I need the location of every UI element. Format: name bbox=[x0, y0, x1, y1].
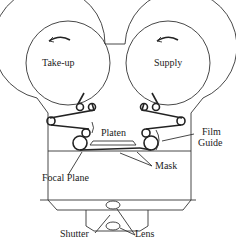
film-guide-label-line2: Guide bbox=[198, 137, 223, 148]
mask-label: Mask bbox=[155, 160, 177, 171]
mask-pointer-2 bbox=[137, 152, 152, 166]
platen bbox=[90, 141, 136, 145]
mask-pointer-1 bbox=[120, 153, 152, 166]
platen-label: Platen bbox=[101, 127, 126, 138]
film-guide-left bbox=[92, 122, 94, 133]
shutter-label: Shutter bbox=[60, 228, 90, 239]
film-guide-pointer bbox=[162, 134, 194, 141]
right-film-path bbox=[140, 93, 185, 150]
supply-label: Supply bbox=[154, 57, 182, 68]
shutter-pointer bbox=[95, 215, 110, 233]
film-transport-diagram: Take-up Supply Platen Film Guide Mask Fo… bbox=[0, 0, 236, 243]
focal-plane-label: Focal Plane bbox=[42, 172, 89, 183]
lens-icon bbox=[106, 222, 120, 230]
takeup-label: Take-up bbox=[42, 57, 75, 68]
housing-outline bbox=[0, 0, 236, 210]
shutter-icon bbox=[106, 201, 120, 209]
lens-label: Lens bbox=[135, 228, 155, 239]
film-guide-label-line1: Film bbox=[202, 126, 221, 137]
